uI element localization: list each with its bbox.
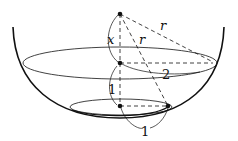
label-height-between: 1 (108, 82, 116, 97)
dashed-lines (120, 14, 213, 106)
label-radius-small: 1 (141, 124, 149, 139)
large-center-point (118, 61, 123, 66)
small-edge-point (166, 104, 171, 109)
bowl-diagram: x r r 2 1 1 (0, 0, 238, 141)
label-r-top: r (160, 18, 167, 33)
label-x: x (107, 32, 115, 47)
small-center-point (118, 104, 123, 109)
apex-point (118, 12, 123, 17)
label-r-slant: r (139, 32, 146, 47)
label-radius-large: 2 (162, 67, 170, 82)
